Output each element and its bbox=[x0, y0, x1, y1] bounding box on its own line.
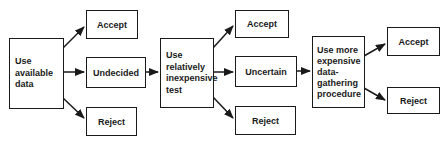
step-2-line-3: inexpensive bbox=[166, 73, 213, 85]
outcome-accept-1: Accept bbox=[86, 10, 138, 39]
outcome-label: Accept bbox=[247, 19, 277, 29]
step-1-line-3: data bbox=[15, 79, 63, 91]
outcome-label: Accept bbox=[97, 20, 127, 30]
arrow-to-accept-2 bbox=[213, 26, 233, 48]
outcome-accept-3: Accept bbox=[387, 27, 440, 56]
outcome-label: Reject bbox=[252, 116, 279, 126]
step-3-line-5: procedure bbox=[317, 89, 364, 100]
step-2-line-2: relatively bbox=[166, 62, 213, 74]
step-2-line-4: test bbox=[166, 85, 213, 97]
arrow-to-accept-3 bbox=[364, 44, 385, 56]
step-1-line-2: available bbox=[15, 68, 63, 80]
arrow-to-reject-2 bbox=[213, 97, 233, 118]
outcome-label: Accept bbox=[398, 37, 428, 47]
outcome-label: Undecided bbox=[93, 68, 139, 78]
outcome-uncertain: Uncertain bbox=[235, 56, 297, 87]
outcome-label: Uncertain bbox=[245, 67, 287, 77]
outcome-accept-2: Accept bbox=[235, 10, 289, 38]
outcome-undecided: Undecided bbox=[86, 57, 146, 88]
step-use-available-data: Use available data bbox=[9, 38, 64, 109]
outcome-reject-1: Reject bbox=[86, 107, 137, 136]
arrow-to-accept-1 bbox=[63, 27, 84, 48]
arrow-to-reject-1 bbox=[63, 98, 84, 118]
step-use-expensive-procedure: Use more expensive data- gathering proce… bbox=[312, 36, 365, 108]
outcome-label: Reject bbox=[98, 117, 125, 127]
outcome-reject-3: Reject bbox=[387, 87, 440, 114]
connector-arrows bbox=[0, 0, 448, 142]
step-3-line-4: gathering bbox=[317, 78, 364, 89]
arrow-to-reject-3 bbox=[364, 88, 385, 100]
step-3-line-2: expensive bbox=[317, 56, 364, 67]
step-1-line-1: Use bbox=[15, 56, 63, 68]
step-2-line-1: Use bbox=[166, 50, 213, 62]
step-3-line-1: Use more bbox=[317, 45, 364, 56]
step-3-line-3: data- bbox=[317, 67, 364, 78]
outcome-reject-2: Reject bbox=[235, 106, 296, 135]
step-use-inexpensive-test: Use relatively inexpensive test bbox=[160, 38, 214, 108]
outcome-label: Reject bbox=[400, 96, 427, 106]
